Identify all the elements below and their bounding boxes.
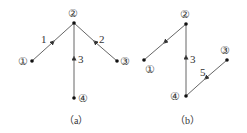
edge-b-label-3: 3	[190, 54, 196, 65]
diagram-b-edges	[142, 22, 229, 98]
edge-a-label-1: 1	[41, 34, 47, 45]
edge-b-label-5: 5	[200, 67, 206, 78]
caption-b: （b）	[175, 112, 200, 127]
node-b-4: ④	[170, 91, 180, 102]
node-b-1: ①	[145, 64, 155, 75]
caption-a: （a）	[64, 112, 88, 127]
node-b-2: ②	[180, 9, 190, 20]
node-a-4: ④	[78, 93, 88, 104]
node-a-2: ②	[68, 8, 78, 19]
node-b-3: ③	[220, 45, 230, 56]
edge-a-label-3: 3	[78, 54, 84, 65]
node-a-1: ①	[18, 56, 28, 67]
node-a-3: ③	[120, 56, 130, 67]
edge-a-label-2: 2	[99, 34, 105, 45]
